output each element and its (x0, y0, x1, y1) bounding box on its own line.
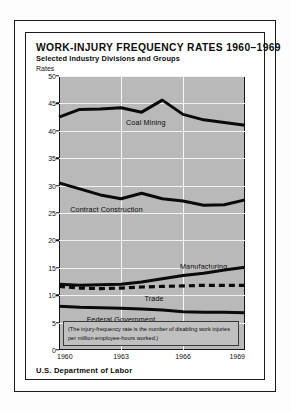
series-line (59, 306, 245, 313)
footnote-line-1: (The injury-frequency rate is the number… (68, 326, 211, 332)
footnote-box: (The injury-frequency rate is the number… (63, 321, 239, 346)
x-tick-label: 1963 (113, 353, 129, 360)
chart-title: WORK-INJURY FREQUENCY RATES 1960–1969 (36, 42, 256, 53)
y-axis-label: Rates (36, 65, 54, 72)
y-tick-label: 50 (48, 73, 56, 80)
series-label-contract-construction: Contract Construction (70, 205, 143, 214)
y-tick-label: 15 (48, 264, 56, 271)
plot-area-wrapper: 05101520253035404550 1960196319661969 Co… (59, 76, 245, 350)
series-label-manufacturing: Manufacturing (180, 262, 228, 271)
y-tick-label: 40 (48, 127, 56, 134)
y-tick-label: 10 (48, 292, 56, 299)
y-tick-label: 45 (48, 100, 56, 107)
series-label-coal-mining: Coal Mining (126, 117, 166, 126)
x-tick-label: 1966 (175, 353, 191, 360)
x-tick-label: 1969 (229, 353, 245, 360)
source-attribution: U.S. Department of Labor (36, 366, 132, 375)
series-label-trade: Trade (144, 293, 163, 302)
chart-page: WORK-INJURY FREQUENCY RATES 1960–1969 Se… (0, 0, 291, 412)
series-line (59, 183, 245, 205)
chart-subtitle: Selected Industry Divisions and Groups (36, 54, 256, 63)
y-tick-label: 25 (48, 210, 56, 217)
y-tick-label: 20 (48, 237, 56, 244)
y-tick-label: 35 (48, 155, 56, 162)
y-tick-label: 30 (48, 182, 56, 189)
x-tick-label: 1960 (57, 353, 73, 360)
